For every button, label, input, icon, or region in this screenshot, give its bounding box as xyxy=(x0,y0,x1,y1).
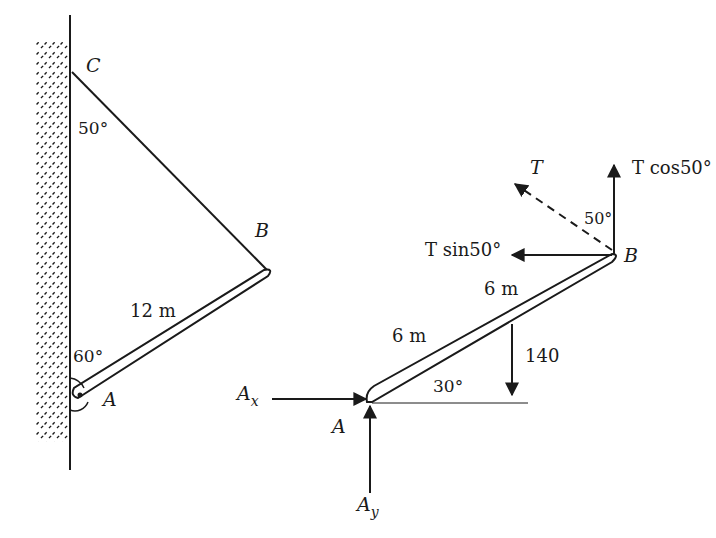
beam-ab xyxy=(73,270,271,398)
label-lower-6m: 6 m xyxy=(392,325,426,346)
left-figure: C 50° B 12 m 60° A xyxy=(36,15,270,470)
pin-arc xyxy=(70,402,88,411)
label-t-cos: T cos50° xyxy=(632,157,712,178)
label-a: A xyxy=(101,388,117,410)
cable-cb xyxy=(72,72,268,271)
label-upper-6m: 6 m xyxy=(484,278,518,299)
label-b: B xyxy=(254,219,269,241)
label-ay: Ay xyxy=(355,493,380,520)
free-body-diagram: C 50° B 12 m 60° A T T cos50° 50° T sin5… xyxy=(0,0,716,538)
label-b-right: B xyxy=(623,244,638,266)
label-load: 140 xyxy=(525,345,559,366)
label-angle-a: 60° xyxy=(73,346,103,366)
label-angle-c: 50° xyxy=(78,118,108,138)
label-ax: Ax xyxy=(235,382,259,409)
label-t-sin: T sin50° xyxy=(425,239,501,260)
label-t: T xyxy=(530,156,544,178)
right-figure: T T cos50° 50° T sin50° B 6 m 6 m 140 30… xyxy=(235,156,712,520)
label-angle-30: 30° xyxy=(433,376,463,396)
pin-a xyxy=(78,393,83,398)
wall-hatching xyxy=(36,42,68,442)
label-angle-b: 50° xyxy=(584,209,612,228)
label-c: C xyxy=(86,54,101,76)
label-length: 12 m xyxy=(130,300,176,321)
label-a-right: A xyxy=(330,415,346,437)
